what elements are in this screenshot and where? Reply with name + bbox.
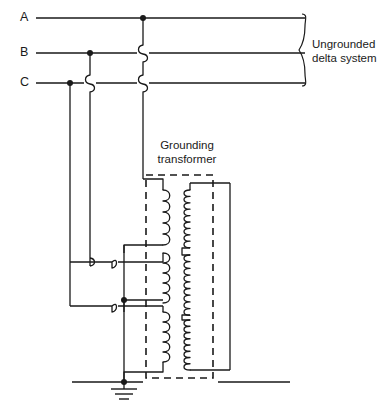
grounding-transformer-line-2: transformer xyxy=(147,153,227,167)
junction-mid-tap xyxy=(121,297,127,303)
delta-system-brace xyxy=(299,14,306,86)
ungrounded-delta-system-label: Ungrounded delta system xyxy=(312,38,377,65)
grounding-transformer-line-1: Grounding xyxy=(147,139,227,153)
phase-b-drop-conductor xyxy=(86,53,95,258)
primary-3-c-feed xyxy=(70,304,163,312)
phase-b-label: B xyxy=(20,45,28,59)
ungrounded-delta-line-2: delta system xyxy=(312,52,377,66)
secondary-winding-1 xyxy=(184,190,190,248)
secondary-winding-group xyxy=(182,183,230,370)
grounding-transformer-label: Grounding transformer xyxy=(147,139,227,166)
primary-winding-1 xyxy=(163,190,170,245)
primary-2-b-feed xyxy=(70,260,163,268)
phase-bus-lines xyxy=(36,18,305,83)
ungrounded-delta-line-1: Ungrounded xyxy=(312,38,377,52)
junction-phase-a xyxy=(140,15,146,21)
grounding-transformer-enclosure xyxy=(146,175,213,378)
secondary-winding-2 xyxy=(184,255,190,315)
phase-a-label: A xyxy=(20,10,28,24)
primary-winding-group xyxy=(70,179,170,382)
phase-b-dropline xyxy=(86,53,95,258)
junction-neutral xyxy=(121,379,127,385)
primary-3-bottom-lead xyxy=(124,362,163,382)
primary-1-bottom-lead xyxy=(124,245,163,253)
secondary-winding-3 xyxy=(184,320,190,370)
junction-phase-c xyxy=(67,80,73,86)
ground-connection-group xyxy=(72,382,290,399)
primary-winding-3 xyxy=(163,312,170,362)
junction-phase-b xyxy=(87,50,93,56)
grounding-transformer-diagram: A B C Ungrounded delta system Grounding … xyxy=(0,0,390,406)
phase-c-label: C xyxy=(20,75,29,89)
junction-dots xyxy=(67,15,146,385)
secondary-1-2-link xyxy=(182,248,190,255)
primary-winding-2 xyxy=(163,253,170,303)
